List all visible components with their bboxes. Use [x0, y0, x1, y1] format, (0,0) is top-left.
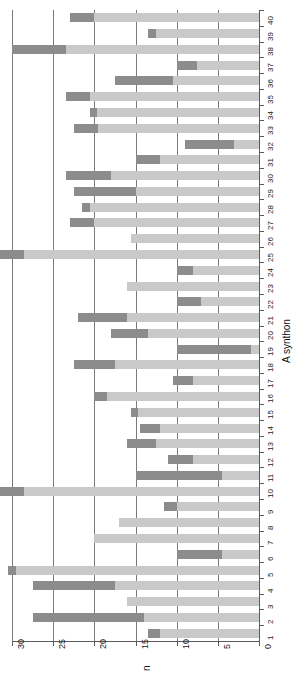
bar-total [0, 487, 259, 496]
x-tick [136, 642, 137, 646]
y-tick [260, 515, 264, 516]
y-tick-label: 35 [266, 95, 275, 104]
y-tick [260, 120, 264, 121]
bar-total [0, 250, 259, 259]
x-tick [177, 642, 178, 646]
bar-segment [177, 61, 198, 70]
y-tick-label: 30 [266, 174, 275, 183]
y-tick [260, 294, 264, 295]
y-tick [260, 168, 264, 169]
y-tick-label: 23 [266, 284, 275, 293]
bar-total [131, 234, 259, 243]
y-tick [260, 578, 264, 579]
bar-segment [173, 376, 194, 385]
bar-segment [115, 76, 173, 85]
bar-total [127, 282, 259, 291]
bar-segment [0, 250, 24, 259]
bar-total [94, 392, 259, 401]
bar-total [74, 124, 259, 133]
bar-segment [185, 140, 234, 149]
y-tick-label: 8 [266, 525, 275, 529]
x-tick [259, 642, 260, 646]
y-tick [260, 531, 264, 532]
bar-segment [164, 502, 176, 511]
bar-segment [66, 171, 111, 180]
y-tick [260, 341, 264, 342]
y-tick [260, 499, 264, 500]
y-tick [260, 231, 264, 232]
y-tick-label: 9 [266, 509, 275, 513]
y-tick-label: 15 [266, 410, 275, 419]
y-tick [260, 483, 264, 484]
bar-total [82, 203, 259, 212]
bar-total [90, 108, 259, 117]
y-tick [260, 184, 264, 185]
y-tick [260, 247, 264, 248]
bar-segment [78, 313, 127, 322]
y-tick-label: 20 [266, 331, 275, 340]
y-tick-label: 38 [266, 48, 275, 57]
y-tick-label: 32 [266, 142, 275, 151]
y-tick-label: 40 [266, 16, 275, 25]
x-tick [12, 642, 13, 646]
y-axis-title: A synthon [281, 319, 292, 363]
y-tick [260, 73, 264, 74]
y-tick-label: 5 [266, 573, 275, 577]
y-tick [260, 136, 264, 137]
bar-segment [177, 297, 202, 306]
y-tick-label: 2 [266, 620, 275, 624]
bar-total [94, 534, 259, 543]
y-tick [260, 326, 264, 327]
bar-segment [74, 124, 99, 133]
gridline [136, 10, 137, 641]
bar-segment [111, 329, 148, 338]
x-tick-label: 30 [16, 639, 26, 649]
bar-segment [70, 218, 95, 227]
y-tick [260, 546, 264, 547]
bar-segment [127, 439, 156, 448]
y-tick [260, 42, 264, 43]
bar-segment [136, 471, 222, 480]
y-tick-label: 25 [266, 253, 275, 262]
gridline [53, 10, 54, 641]
y-tick-label: 28 [266, 205, 275, 214]
y-tick [260, 452, 264, 453]
bar-segment [140, 424, 161, 433]
bar-total [70, 13, 259, 22]
y-tick-label: 12 [266, 458, 275, 467]
bar-total [8, 566, 259, 575]
bar-total [70, 218, 259, 227]
bar-segment [94, 392, 106, 401]
chart-figure: 1234567891011121314151617181920212223242… [0, 0, 302, 689]
y-tick-label: 14 [266, 426, 275, 435]
y-tick-label: 33 [266, 126, 275, 135]
x-tick [94, 642, 95, 646]
bar-segment [33, 613, 144, 622]
y-tick-label: 34 [266, 111, 275, 120]
bar-segment [66, 92, 91, 101]
bar-total [127, 597, 259, 606]
y-tick-label: 31 [266, 158, 275, 167]
bar-segment [8, 566, 16, 575]
y-tick-label: 6 [266, 557, 275, 561]
bar-segment [74, 360, 115, 369]
bar-segment [148, 629, 160, 638]
bar-segment [136, 155, 161, 164]
y-tick-label: 11 [266, 474, 275, 482]
y-tick-label: 22 [266, 300, 275, 309]
bar-total [66, 92, 259, 101]
y-tick [260, 152, 264, 153]
y-tick-label: 27 [266, 221, 275, 230]
y-tick-label: 16 [266, 395, 275, 404]
bar-segment [74, 187, 136, 196]
y-tick [260, 89, 264, 90]
y-tick [260, 373, 264, 374]
x-tick [53, 642, 54, 646]
bar-segment [177, 345, 251, 354]
bar-segment [168, 455, 193, 464]
bar-segment [70, 13, 95, 22]
gridline [218, 10, 219, 641]
y-tick-label: 37 [266, 63, 275, 72]
bar-segment [12, 45, 66, 54]
y-tick [260, 420, 264, 421]
